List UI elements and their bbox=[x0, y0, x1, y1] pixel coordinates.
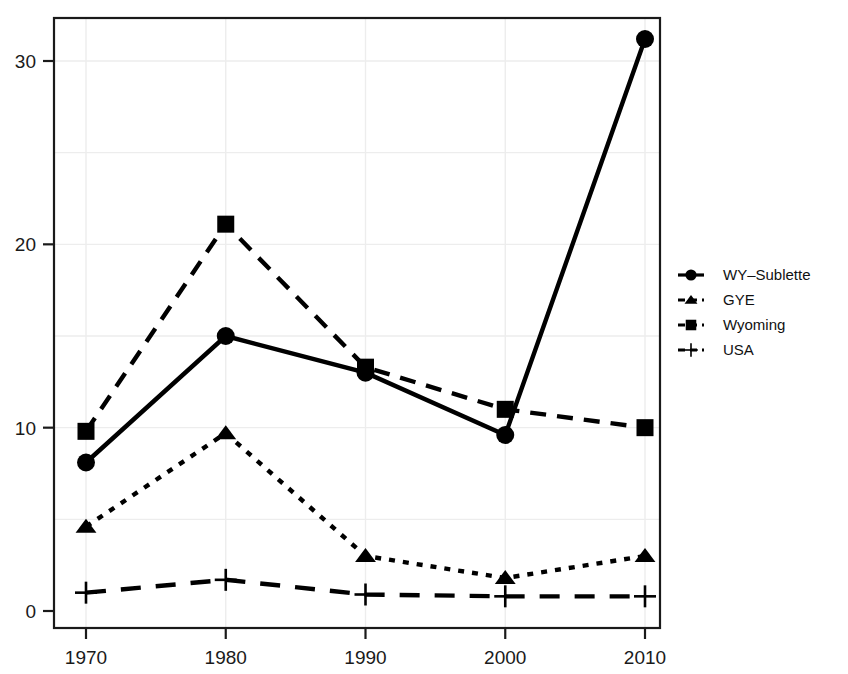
legend-label: USA bbox=[723, 341, 754, 358]
marker-circle bbox=[77, 454, 95, 472]
y-tick-label: 10 bbox=[15, 418, 36, 439]
y-tick-label: 30 bbox=[15, 51, 36, 72]
marker-circle bbox=[217, 327, 235, 345]
line-chart: 0102030 19701980199020002010 WY–Sublette… bbox=[0, 0, 848, 674]
x-tick-label: 1980 bbox=[205, 647, 247, 668]
marker-circle bbox=[636, 30, 654, 48]
x-tick-label: 1970 bbox=[65, 647, 107, 668]
marker-circle-legend bbox=[685, 269, 696, 280]
marker-square-legend bbox=[686, 320, 697, 331]
chart-container: 0102030 19701980199020002010 WY–Sublette… bbox=[0, 0, 848, 674]
marker-square bbox=[217, 216, 234, 233]
marker-square bbox=[78, 423, 95, 440]
legend-label: Wyoming bbox=[723, 316, 785, 333]
x-tick-label: 2010 bbox=[624, 647, 666, 668]
chart-background bbox=[0, 0, 848, 674]
marker-circle bbox=[496, 426, 514, 444]
y-tick-label: 0 bbox=[25, 601, 36, 622]
marker-square bbox=[637, 419, 654, 436]
legend-label: WY–Sublette bbox=[723, 266, 811, 283]
marker-square bbox=[497, 401, 514, 418]
marker-square bbox=[357, 359, 374, 376]
y-tick-label: 20 bbox=[15, 234, 36, 255]
legend-label: GYE bbox=[723, 291, 755, 308]
x-tick-label: 1990 bbox=[344, 647, 386, 668]
x-tick-label: 2000 bbox=[484, 647, 526, 668]
